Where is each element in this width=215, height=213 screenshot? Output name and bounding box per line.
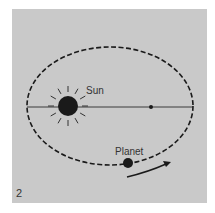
planet-label: Planet	[115, 146, 144, 157]
figure-number: 2	[16, 187, 22, 199]
focus-point-icon	[149, 105, 153, 109]
planet-icon	[123, 158, 133, 168]
orbit-diagram: Sun Planet 2	[0, 0, 215, 213]
sun-icon	[58, 96, 78, 116]
sun-label: Sun	[86, 85, 104, 96]
direction-arrow-icon	[127, 164, 166, 177]
